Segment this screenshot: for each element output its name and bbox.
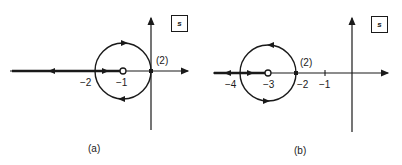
arrow-icon — [247, 70, 254, 76]
mult-label-a: (2) — [156, 56, 168, 66]
root-locus-figure — [0, 0, 402, 165]
arrow-icon — [48, 68, 55, 74]
s-plane-label-a: s — [171, 15, 188, 32]
diagram-b — [213, 18, 388, 132]
diagram-a — [10, 18, 188, 130]
arrow-icon — [118, 96, 125, 102]
s-plane-label-b: s — [371, 16, 388, 33]
arrow-icon — [263, 98, 270, 104]
arrow-icon — [267, 42, 274, 48]
zero-marker-a — [120, 68, 126, 74]
caption-a: (a) — [88, 143, 100, 154]
axis-label-minus-4-b: −4 — [225, 80, 236, 90]
zero-marker-b — [265, 70, 271, 76]
axis-label-minus-3-b: −3 — [263, 80, 274, 90]
arrow-icon — [224, 70, 231, 76]
caption-b: (b) — [294, 145, 306, 156]
arrow-icon — [121, 40, 128, 46]
double-pole-marker-a — [149, 69, 153, 73]
mult-label-b: (2) — [300, 58, 312, 68]
arrow-icon — [102, 68, 109, 74]
axis-label-minus-2-a: −2 — [80, 78, 91, 88]
axis-label-minus-1-b: −1 — [319, 80, 330, 90]
axis-label-minus-1-a: −1 — [116, 78, 127, 88]
axis-label-minus-2-b: −2 — [297, 80, 308, 90]
double-pole-marker-b — [294, 71, 298, 75]
